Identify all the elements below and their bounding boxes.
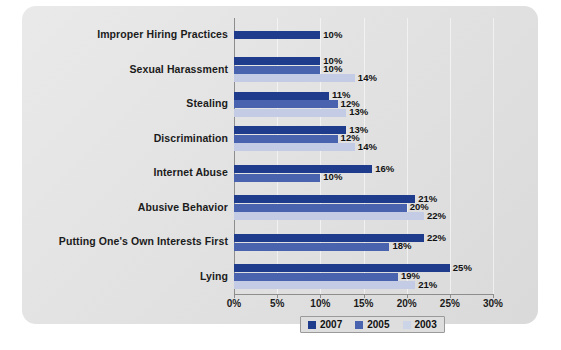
legend-label: 2007 xyxy=(320,319,342,330)
bar-2003 xyxy=(234,212,424,220)
category-label: Improper Hiring Practices xyxy=(28,28,228,40)
gridline xyxy=(320,18,321,294)
category-label: Putting One's Own Interests First xyxy=(28,235,228,247)
category-label: Internet Abuse xyxy=(28,166,228,178)
bar-value-label: 19% xyxy=(401,272,420,280)
legend-swatch-icon xyxy=(308,321,316,329)
bar-2007 xyxy=(234,57,320,65)
bar-2007 xyxy=(234,165,372,173)
bar-value-label: 22% xyxy=(427,234,446,242)
bar-value-label: 14% xyxy=(358,74,377,82)
bar-2007 xyxy=(234,195,415,203)
legend-swatch-icon xyxy=(355,321,363,329)
legend-label: 2003 xyxy=(415,319,437,330)
chart-panel: 0%5%10%15%20%25%30% Improper Hiring Prac… xyxy=(22,6,538,324)
category-label: Sexual Harassment xyxy=(28,63,228,75)
x-axis-tick-label: 10% xyxy=(310,298,330,309)
x-axis-tick-label: 0% xyxy=(227,298,241,309)
legend-item: 2003 xyxy=(403,319,437,330)
bar-value-label: 10% xyxy=(323,31,342,39)
gridline xyxy=(407,18,408,294)
bar-2005 xyxy=(234,66,320,74)
bar-2005 xyxy=(234,100,338,108)
category-label: Discrimination xyxy=(28,132,228,144)
legend-item: 2007 xyxy=(308,319,342,330)
category-label: Lying xyxy=(28,270,228,282)
bar-2003 xyxy=(234,281,415,289)
legend-label: 2005 xyxy=(367,319,389,330)
legend-item: 2005 xyxy=(355,319,389,330)
bar-2005 xyxy=(234,273,398,281)
bar-2005 xyxy=(234,243,389,251)
bar-value-label: 22% xyxy=(427,212,446,220)
bar-2007 xyxy=(234,92,329,100)
bar-value-label: 18% xyxy=(392,242,411,250)
bar-2003 xyxy=(234,74,355,82)
x-axis-tick-label: 30% xyxy=(483,298,503,309)
bar-2007 xyxy=(234,126,346,134)
x-axis-tick-label: 5% xyxy=(270,298,284,309)
legend-swatch-icon xyxy=(403,321,411,329)
bar-value-label: 21% xyxy=(418,281,437,289)
chart-legend: 200720052003 xyxy=(300,316,445,333)
bar-value-label: 20% xyxy=(410,203,429,211)
bar-value-label: 25% xyxy=(453,264,472,272)
bar-2003 xyxy=(234,143,355,151)
category-label: Abusive Behavior xyxy=(28,201,228,213)
x-axis-tick-label: 15% xyxy=(353,298,373,309)
bar-value-label: 12% xyxy=(341,134,360,142)
bar-value-label: 10% xyxy=(323,65,342,73)
bar-value-label: 16% xyxy=(375,165,394,173)
bar-value-label: 13% xyxy=(349,108,368,116)
bar-2005 xyxy=(234,174,320,182)
gridline xyxy=(364,18,365,294)
bar-value-label: 14% xyxy=(358,143,377,151)
gridline xyxy=(493,18,494,294)
bar-2003 xyxy=(234,109,346,117)
bar-2005 xyxy=(234,204,407,212)
x-axis-tick-label: 25% xyxy=(440,298,460,309)
bar-value-label: 10% xyxy=(323,173,342,181)
category-label: Stealing xyxy=(28,97,228,109)
gridline xyxy=(450,18,451,294)
bar-2007 xyxy=(234,31,320,39)
bar-2005 xyxy=(234,135,338,143)
x-axis-tick-label: 20% xyxy=(397,298,417,309)
